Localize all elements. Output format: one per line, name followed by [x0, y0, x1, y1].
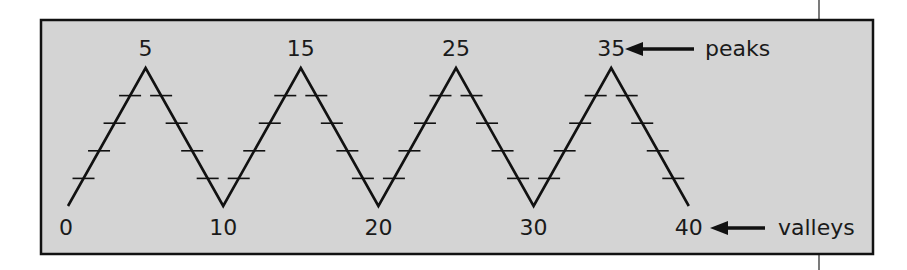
valley-label: 30	[520, 215, 548, 240]
valley-label: 10	[209, 215, 237, 240]
peak-label: 35	[597, 36, 625, 61]
peak-label: 5	[139, 36, 153, 61]
peaks-label: peaks	[705, 36, 770, 61]
valley-label: 40	[675, 215, 703, 240]
peak-label: 25	[442, 36, 470, 61]
valley-label: 0	[59, 215, 73, 240]
valley-label: 20	[364, 215, 392, 240]
peak-label: 15	[287, 36, 315, 61]
zigzag-diagram: 0510152025303540 peaks valleys	[0, 0, 907, 270]
valleys-label: valleys	[778, 215, 855, 240]
